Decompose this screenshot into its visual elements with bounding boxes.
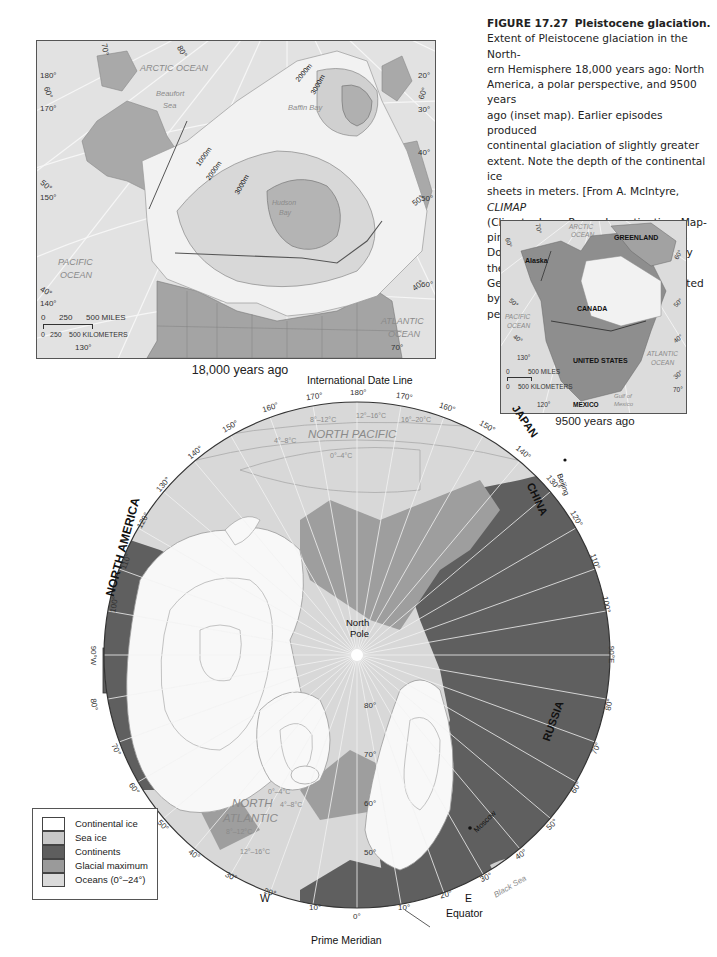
- caption-line: ago (inset map). Earlier episodes produc…: [487, 108, 712, 139]
- temp-band-label: 16°–20°C: [401, 416, 431, 423]
- longitude-tick: 0°: [353, 912, 361, 921]
- legend: Continental ice Sea ice Continents Glaci…: [32, 808, 158, 900]
- scale-miles-250: 250: [59, 313, 72, 322]
- tick-label: 130°: [75, 343, 92, 352]
- tick-label: 130°: [517, 354, 530, 361]
- tick-label: 70°: [391, 343, 403, 352]
- temp-band-label: 4°–8°C: [280, 801, 302, 808]
- figure-title: Pleistocene glaciation.: [575, 17, 711, 29]
- atlantic-ocean-label-2: OCEAN: [388, 329, 420, 339]
- caption-italic: CLIMAP: [487, 201, 526, 213]
- pacific-ocean-label: PACIFIC: [58, 257, 93, 267]
- north-pacific-label: NORTH PACIFIC: [308, 428, 396, 440]
- temp-band-label: 8°–12°C: [310, 416, 336, 423]
- longitude-tick: 90°W: [89, 646, 98, 666]
- caption-line: extent. Note the depth of the continenta…: [487, 154, 712, 185]
- latitude-tick: 70°: [364, 750, 376, 759]
- hudson-bay-label: Hudson: [272, 199, 296, 206]
- legend-item-oceans: Oceans (0°–24°): [42, 873, 152, 887]
- legend-item-sea-ice: Sea ice: [42, 831, 152, 845]
- inset-arctic-label-2: OCEAN: [571, 231, 594, 238]
- figure-number: FIGURE 17.27: [487, 17, 568, 29]
- inset-atlantic-label: ATLANTIC: [647, 350, 678, 357]
- north-pole-label: North: [346, 617, 369, 628]
- north-america-map: ARCTIC OCEAN Beaufort Sea Baffin Bay Hud…: [36, 40, 436, 359]
- greenland-label: GREENLAND: [614, 234, 658, 241]
- swatch-continental-ice: [42, 817, 65, 831]
- inset-atlantic-label-2: OCEAN: [651, 359, 674, 366]
- temp-band-label: 0°–4°C: [268, 788, 290, 795]
- arctic-ocean-label: ARCTIC OCEAN: [140, 63, 208, 73]
- legend-label: Continental ice: [75, 817, 138, 831]
- prime-meridian-label: Prime Meridian: [311, 934, 382, 946]
- legend-item-glacial-maximum: Glacial maximum: [42, 859, 152, 873]
- tick-label: 70°: [100, 43, 111, 56]
- caption-line: sheets in meters. [From A. McIntyre,: [487, 185, 679, 197]
- longitude-tick: 10°: [398, 903, 410, 912]
- scale-km-500: 500 KILOMETERS: [69, 331, 128, 338]
- temp-band-label: 8°–12°C: [226, 828, 252, 835]
- equator-label: Equator: [446, 907, 483, 919]
- temp-band-label: 12°–16°C: [240, 848, 270, 855]
- tick-label: 20°: [418, 71, 430, 80]
- caption-line: ern Hemisphere 18,000 years ago: North: [487, 62, 712, 77]
- tick-label: 50°: [421, 194, 433, 203]
- tick-label: 180°: [40, 71, 57, 80]
- pacific-ocean-label-2: OCEAN: [60, 270, 92, 280]
- beaufort-sea-label: Beaufort: [156, 89, 184, 98]
- scale-miles-500: 500 MILES: [86, 313, 126, 322]
- inset-pacific-label: PACIFIC: [505, 313, 530, 320]
- united-states-label: UNITED STATES: [573, 357, 628, 364]
- atlantic-ocean-label: ATLANTIC: [381, 316, 424, 326]
- canada-label: CANADA: [577, 305, 607, 312]
- tick-label: 30°: [418, 105, 430, 114]
- caption-line: Extent of Pleistocene glaciation in the …: [487, 31, 712, 62]
- tick-label: 60°: [421, 280, 433, 289]
- north-pole-label-2: Pole: [350, 628, 369, 639]
- longitude-tick: 90°E: [607, 646, 616, 663]
- east-label: E: [465, 892, 472, 904]
- north-atlantic-label-2: ATLANTIC: [223, 812, 278, 824]
- tick-label: 70°: [535, 223, 544, 234]
- longitude-tick: 180°: [350, 388, 367, 397]
- north-atlantic-label: NORTH: [232, 797, 273, 809]
- scale-km-250: 250: [50, 331, 62, 338]
- inset-arctic-label: ARCTIC: [569, 223, 593, 230]
- legend-item-continents: Continents: [42, 845, 152, 859]
- latitude-tick: 80°: [364, 701, 376, 710]
- baffin-bay-label: Baffin Bay: [288, 103, 322, 112]
- swatch-oceans: [42, 873, 65, 887]
- latitude-tick: 50°: [364, 848, 376, 857]
- latitude-tick: 60°: [364, 799, 376, 808]
- temp-band-label: 12°–16°C: [356, 412, 386, 419]
- swatch-continents: [42, 845, 65, 859]
- swatch-sea-ice: [42, 831, 65, 845]
- legend-label: Sea ice: [75, 831, 107, 845]
- legend-label: Oceans (0°–24°): [75, 873, 145, 887]
- swatch-glacial-maximum: [42, 859, 65, 873]
- caption-line: America, a polar perspective, and 9500 y…: [487, 77, 712, 108]
- legend-label: Glacial maximum: [75, 859, 148, 873]
- scale-km-0: 0: [41, 331, 45, 338]
- caption-line: continental glaciation of slightly great…: [487, 138, 712, 153]
- scale-miles-0: 0: [41, 313, 45, 322]
- tick-label: 140°: [40, 299, 57, 308]
- tick-label: 150°: [40, 193, 57, 202]
- beaufort-sea-label-2: Sea: [163, 101, 176, 110]
- north-america-map-graphic: [37, 41, 435, 358]
- legend-item-continental-ice: Continental ice: [42, 817, 152, 831]
- temp-band-label: 0°–4°C: [330, 452, 352, 459]
- alaska-label: Alaska: [525, 257, 548, 264]
- inset-pacific-label-2: OCEAN: [507, 322, 530, 329]
- hudson-bay-label-2: Bay: [279, 209, 291, 216]
- international-date-line-label: International Date Line: [307, 374, 413, 386]
- tick-label: 170°: [40, 104, 57, 113]
- scale-bar: 0 250 500 MILES 0 250 500 KILOMETERS: [41, 313, 161, 343]
- longitude-tick: 80°: [89, 698, 100, 711]
- temp-band-label: 4°–8°C: [274, 437, 296, 444]
- legend-label: Continents: [75, 845, 120, 859]
- scale-line: [43, 324, 93, 329]
- tick-label: 40°: [418, 148, 430, 157]
- longitude-tick: 10°: [309, 903, 321, 912]
